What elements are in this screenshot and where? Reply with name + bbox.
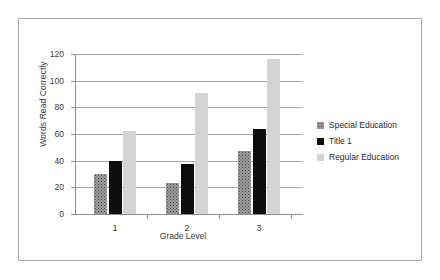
y-axis-tick-label: 80	[55, 102, 64, 112]
bar	[195, 93, 208, 214]
gridline	[75, 54, 303, 55]
x-axis-title: Grade Level	[75, 231, 291, 241]
y-axis-tick: 100	[71, 81, 75, 82]
legend-swatch-icon	[317, 122, 324, 129]
legend-item-label: Title 1	[329, 136, 352, 146]
x-axis-line	[75, 214, 303, 215]
bar	[181, 164, 194, 214]
legend-item-label: Special Education	[329, 120, 397, 130]
bar	[109, 161, 122, 214]
y-axis-tick-label: 100	[50, 76, 64, 86]
bar	[166, 183, 179, 214]
plot-area: 020406080100120 123	[75, 54, 291, 214]
bar	[267, 59, 280, 214]
x-axis-tick	[219, 215, 220, 219]
y-axis-tick: 40	[71, 161, 75, 162]
legend-swatch-icon	[317, 154, 324, 161]
y-axis-tick: 20	[71, 187, 75, 188]
bar	[238, 151, 251, 214]
y-axis-title: Words Read Correctly	[38, 49, 48, 159]
y-axis-tick: 80	[71, 107, 75, 108]
legend-item[interactable]: Special Education	[317, 117, 421, 133]
y-axis-tick: 120	[71, 54, 75, 55]
y-axis-tick-label: 60	[55, 129, 64, 139]
y-axis-tick-label: 40	[55, 156, 64, 166]
chart-legend: Special EducationTitle 1Regular Educatio…	[317, 117, 421, 165]
bar-chart: Words Read Correctly 020406080100120 123…	[19, 19, 423, 262]
legend-item-label: Regular Education	[329, 152, 399, 162]
legend-swatch-icon	[317, 138, 324, 145]
y-axis-tick-label: 20	[55, 182, 64, 192]
bar	[253, 129, 266, 214]
x-axis-tick	[147, 215, 148, 219]
y-axis-tick-label: 0	[59, 209, 64, 219]
legend-item[interactable]: Regular Education	[317, 149, 421, 165]
legend-item[interactable]: Title 1	[317, 133, 421, 149]
bar	[94, 174, 107, 214]
y-axis-tick: 60	[71, 134, 75, 135]
bar	[123, 131, 136, 214]
figure-frame: Words Read Correctly 020406080100120 123…	[18, 18, 422, 261]
y-axis-tick-label: 120	[50, 49, 64, 59]
x-axis-tick	[291, 215, 292, 219]
